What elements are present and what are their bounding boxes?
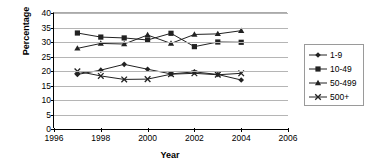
y-tick-label: 20 <box>42 66 51 76</box>
gridline-y <box>54 100 288 101</box>
data-point-1-9 <box>121 62 127 68</box>
x-tick-mark <box>288 128 289 132</box>
y-tick-mark <box>51 13 54 14</box>
legend-marker-diamond-icon <box>308 49 328 61</box>
x-tick-label: 2004 <box>232 133 251 143</box>
legend-item-1-9[interactable]: 1-9 <box>305 48 363 62</box>
legend-item-10-49[interactable]: 10-49 <box>305 62 363 76</box>
x-tick-mark <box>148 128 149 132</box>
x-tick-mark <box>101 128 102 132</box>
data-point-10-49 <box>168 31 173 36</box>
data-point-10-49 <box>122 35 127 40</box>
gridline-y <box>54 13 288 14</box>
legend-marker-square-icon <box>308 63 328 75</box>
x-tick-mark <box>54 128 55 132</box>
gridline-y <box>54 42 288 43</box>
data-point-10-49 <box>75 30 80 35</box>
y-tick-mark <box>51 86 54 87</box>
y-tick-mark <box>51 71 54 72</box>
y-tick-label: 10 <box>42 95 51 105</box>
data-point-10-49 <box>98 34 103 39</box>
gridline-y <box>54 86 288 87</box>
x-tick-label: 2002 <box>185 133 204 143</box>
data-point-50-499 <box>145 32 151 37</box>
y-tick-label: 35 <box>42 23 51 33</box>
x-tick-label: 1998 <box>91 133 110 143</box>
data-point-1-9 <box>238 77 244 83</box>
gridline-y <box>54 129 288 130</box>
legend-marker-triangle-icon <box>308 77 328 89</box>
gridline-y <box>54 71 288 72</box>
y-tick-mark <box>51 57 54 58</box>
y-tick-mark <box>51 28 54 29</box>
y-tick-label: 25 <box>42 52 51 62</box>
legend-label: 1-9 <box>330 50 342 60</box>
legend-label: 10-49 <box>330 64 352 74</box>
y-tick-label: 5 <box>46 110 51 120</box>
y-tick-mark <box>51 115 54 116</box>
line-chart: Percentage 05101520253035401996199820002… <box>0 0 371 168</box>
y-tick-label: 30 <box>42 37 51 47</box>
legend-item-500+[interactable]: 500+ <box>305 90 363 104</box>
gridline-y <box>54 57 288 58</box>
x-axis-title: Year <box>53 150 287 160</box>
y-axis-title: Percentage <box>21 0 31 83</box>
legend-item-50-499[interactable]: 50-499 <box>305 76 363 90</box>
legend-marker-x-icon <box>308 91 328 103</box>
y-tick-mark <box>51 100 54 101</box>
y-tick-label: 15 <box>42 81 51 91</box>
y-tick-label: 40 <box>42 8 51 18</box>
x-tick-mark <box>194 128 195 132</box>
plot-area: 0510152025303540199619982000200220042006 <box>53 12 287 128</box>
x-tick-label: 2000 <box>138 133 157 143</box>
data-point-10-49 <box>192 44 197 49</box>
x-tick-mark <box>241 128 242 132</box>
chart-legend: 1-910-4950-499500+ <box>304 44 364 106</box>
legend-label: 50-499 <box>330 78 356 88</box>
gridline-y <box>54 115 288 116</box>
x-tick-label: 2006 <box>279 133 298 143</box>
legend-label: 500+ <box>330 92 349 102</box>
x-tick-label: 1996 <box>45 133 64 143</box>
y-tick-mark <box>51 42 54 43</box>
gridline-y <box>54 28 288 29</box>
